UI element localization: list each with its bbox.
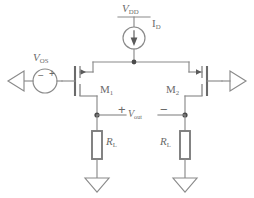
output-voltage-label: Vout xyxy=(128,109,142,119)
rl1-subscript: L xyxy=(113,141,117,148)
vdd-subscript: DD xyxy=(129,8,139,15)
bias-current-subscript: D xyxy=(156,23,161,30)
vdd-label: VDD xyxy=(122,3,139,14)
left-load-resistor-symbol xyxy=(92,131,102,159)
vos-subscript: OS xyxy=(40,57,49,64)
m1-source-arrow xyxy=(81,69,87,75)
offset-voltage-label: VOS xyxy=(33,52,48,63)
vdd-symbol: V xyxy=(122,2,129,14)
m2-symbol: M xyxy=(166,83,176,95)
left-ground-symbol xyxy=(85,178,109,192)
source-negative-sign: − xyxy=(38,71,44,81)
source-positive-sign: + xyxy=(49,69,55,79)
m1-subscript: 1 xyxy=(110,89,113,96)
m2-subscript: 2 xyxy=(176,89,179,96)
vos-symbol: V xyxy=(33,51,40,63)
m1-symbol: M xyxy=(100,83,110,95)
right-ground-symbol xyxy=(173,178,197,192)
circuit-diagram: VDD ID VOS − + M1 M2 + − Vout RL RL xyxy=(0,0,254,198)
tail-node-dot xyxy=(132,60,137,65)
right-output-terminal xyxy=(230,71,246,91)
vout-subscript: out xyxy=(134,113,142,120)
output-negative-sign: − xyxy=(160,103,168,116)
rl2-symbol: R xyxy=(160,135,167,147)
rl1-symbol: R xyxy=(106,135,113,147)
bias-current-label: ID xyxy=(152,18,161,29)
m1-label: M1 xyxy=(100,84,113,95)
rl2-subscript: L xyxy=(167,141,171,148)
right-load-resistor-label: RL xyxy=(160,136,171,147)
left-load-resistor-label: RL xyxy=(106,136,117,147)
m2-label: M2 xyxy=(166,84,179,95)
right-load-resistor-symbol xyxy=(180,131,190,159)
m2-source-arrow xyxy=(196,69,202,75)
schematic-svg xyxy=(0,0,254,198)
left-input-terminal xyxy=(8,71,24,91)
output-positive-sign: + xyxy=(118,103,126,116)
